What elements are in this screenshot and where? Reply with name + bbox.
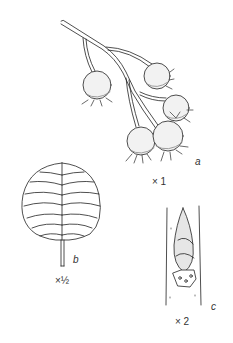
panel-c-letter: c [211,302,216,312]
panel-c-scale: × 2 [175,317,189,327]
panel-a-scale: × 1 [152,177,166,187]
panel-b-letter: b [73,255,79,265]
panel-b-scale: ×½ [55,276,69,286]
fruit-2 [144,63,174,89]
fruit-5 [153,121,188,161]
leaf [22,163,100,266]
fruiting-branch [61,20,193,163]
fruit-3 [163,95,193,122]
fruit-1 [82,71,112,106]
bud-on-twig [166,206,201,305]
botanical-illustration [0,0,233,343]
panel-a-letter: a [195,157,201,167]
fruit-4 [126,127,155,163]
